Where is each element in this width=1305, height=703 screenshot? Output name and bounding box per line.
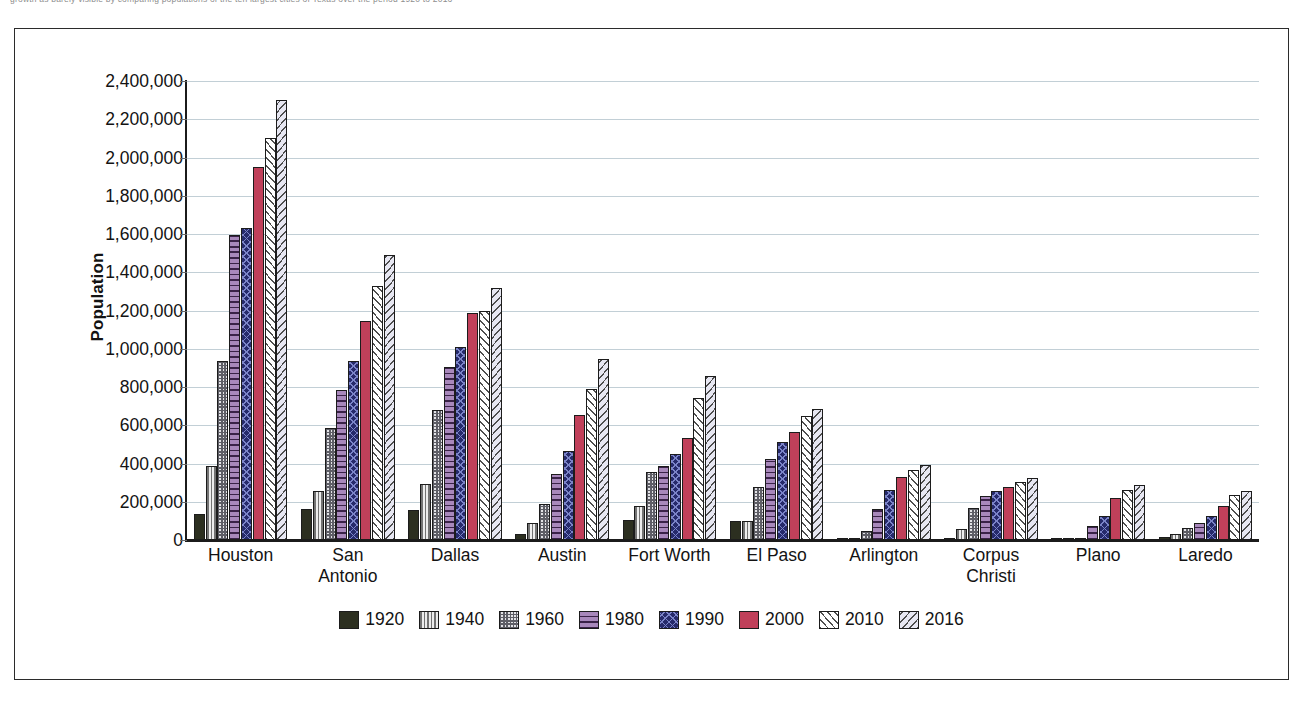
legend-label: 1920 [365, 609, 404, 630]
y-tickmark [180, 119, 187, 120]
legend-label: 2016 [925, 609, 964, 630]
y-tick-label: 1,200,000 [55, 300, 183, 321]
bar [1015, 482, 1026, 540]
legend-item[interactable]: 1990 [659, 609, 724, 630]
legend-label: 1960 [525, 609, 564, 630]
bar [872, 509, 883, 540]
bar [515, 534, 526, 541]
bar [956, 529, 967, 540]
bar [265, 138, 276, 540]
bar [241, 228, 252, 540]
bar [1063, 538, 1074, 540]
legend-label: 2010 [845, 609, 884, 630]
bar [444, 367, 455, 540]
y-tickmark [180, 425, 187, 426]
x-tick-label: Plano [1045, 545, 1152, 587]
y-axis-tick-labels: 2,400,0002,200,0002,000,0001,800,0001,60… [55, 74, 183, 544]
bar [1194, 523, 1205, 540]
x-tick-label: El Paso [723, 545, 830, 587]
bar-cluster [401, 81, 508, 540]
bar [420, 484, 431, 540]
bar [229, 235, 240, 540]
legend-label: 1990 [685, 609, 724, 630]
top-caption-text: growth as barely visible by comparing po… [10, 0, 1010, 6]
bar-cluster [830, 81, 937, 540]
bar [1027, 478, 1038, 540]
bar-cluster [294, 81, 401, 540]
bar-cluster [187, 81, 294, 540]
bar [539, 504, 550, 540]
bar [455, 347, 466, 540]
y-tickmark [180, 540, 187, 541]
y-tick-label: 1,000,000 [55, 338, 183, 359]
y-tickmark [180, 502, 187, 503]
legend-label: 1980 [605, 609, 644, 630]
bar-cluster [616, 81, 723, 540]
y-tick-label: 2,400,000 [55, 71, 183, 92]
legend-swatch-icon [579, 611, 599, 629]
bar [563, 451, 574, 540]
y-tickmark [180, 387, 187, 388]
bar-cluster [723, 81, 830, 540]
bar [1099, 516, 1110, 540]
legend-item[interactable]: 2016 [899, 609, 964, 630]
chart-page: growth as barely visible by comparing po… [0, 0, 1305, 703]
legend-item[interactable]: 2010 [819, 609, 884, 630]
bar [980, 496, 991, 540]
bar [1134, 485, 1145, 540]
bar [658, 466, 669, 540]
bar [812, 409, 823, 540]
bar [467, 313, 478, 540]
bar-cluster [1152, 81, 1259, 540]
bar [742, 521, 753, 540]
legend-swatch-icon [899, 611, 919, 629]
bar [1229, 495, 1240, 540]
y-tick-label: 0 [55, 530, 183, 551]
y-tick-label: 200,000 [55, 491, 183, 512]
bar [753, 487, 764, 540]
bar [1110, 498, 1121, 540]
y-tickmark [180, 158, 187, 159]
legend-item[interactable]: 1980 [579, 609, 644, 630]
y-tick-label: 400,000 [55, 453, 183, 474]
bar [920, 465, 931, 540]
legend-item[interactable]: 1960 [499, 609, 564, 630]
bar [1075, 538, 1086, 540]
bar [253, 167, 264, 541]
x-tick-label: Arlington [830, 545, 937, 587]
chart-frame: Population 2,400,0002,200,0002,000,0001,… [14, 28, 1289, 680]
bar [384, 255, 395, 540]
legend-label: 2000 [765, 609, 804, 630]
bar [991, 491, 1002, 540]
legend-swatch-icon [659, 611, 679, 629]
bar-clusters [187, 81, 1259, 540]
bar [623, 520, 634, 540]
bar [861, 531, 872, 540]
bar [551, 474, 562, 540]
legend-swatch-icon [499, 611, 519, 629]
bar [849, 538, 860, 540]
y-tickmark [180, 81, 187, 82]
plot-area [187, 81, 1259, 540]
bar [1122, 490, 1133, 540]
y-tickmark [180, 311, 187, 312]
bar [479, 311, 490, 540]
legend-item[interactable]: 2000 [739, 609, 804, 630]
bar [884, 490, 895, 540]
bar [682, 438, 693, 540]
legend-item[interactable]: 1920 [339, 609, 404, 630]
bar [586, 389, 597, 540]
bar-cluster [509, 81, 616, 540]
legend-item[interactable]: 1940 [419, 609, 484, 630]
bar [206, 466, 217, 540]
bar [1218, 506, 1229, 540]
bar [837, 538, 848, 540]
legend-swatch-icon [419, 611, 439, 629]
x-tick-label: Houston [187, 545, 294, 587]
bar [730, 521, 741, 540]
bar [944, 538, 955, 540]
bar [408, 510, 419, 540]
bar [705, 376, 716, 540]
y-tick-label: 2,000,000 [55, 147, 183, 168]
y-tick-label: 1,800,000 [55, 185, 183, 206]
